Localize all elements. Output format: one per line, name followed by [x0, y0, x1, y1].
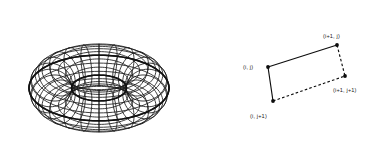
- vertex-label-i1-j: (i+1, j): [323, 33, 340, 39]
- vertex-label-i1-j1: (i+1, j+1): [333, 87, 357, 93]
- torus-wireframe: [29, 44, 169, 132]
- vertex-dot-i1-j1: [343, 74, 347, 78]
- vertex-label-i-j: (i, j): [243, 64, 253, 70]
- figure-root: (i, j)(i+1, j)(i+1, j+1)(i, j+1): [0, 0, 382, 165]
- vertex-dot-i-j: [266, 65, 270, 69]
- quad-vertex-labels: (i, j)(i+1, j)(i+1, j+1)(i, j+1): [243, 33, 357, 119]
- quad-patch-diagram: (i, j)(i+1, j)(i+1, j+1)(i, j+1): [243, 33, 357, 119]
- quad-left-edge: [268, 67, 273, 101]
- quad-right-edge: [337, 45, 345, 76]
- figure-canvas: (i, j)(i+1, j)(i+1, j+1)(i, j+1): [0, 0, 382, 165]
- quad-vertex-dots: [266, 43, 347, 103]
- vertex-dot-i-j1: [271, 99, 275, 103]
- quad-top-edge: [268, 45, 337, 67]
- vertex-dot-i1-j: [335, 43, 339, 47]
- vertex-label-i-j1: (i, j+1): [250, 113, 267, 119]
